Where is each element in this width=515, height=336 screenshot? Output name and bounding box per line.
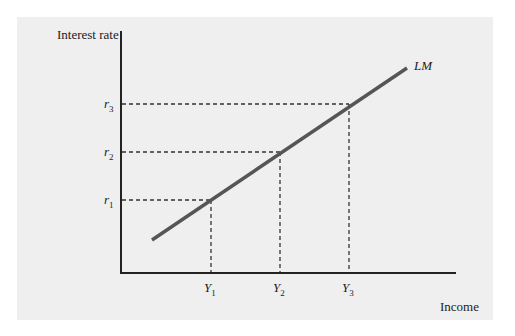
tick-y2: Y2 (273, 280, 285, 298)
lm-curve-label: LM (414, 58, 432, 74)
y-axis-label: Interest rate (57, 27, 119, 43)
tick-y3: Y3 (342, 280, 354, 298)
lm-curve (152, 68, 407, 240)
tick-r1: r1 (104, 192, 114, 210)
tick-r2: r2 (104, 144, 114, 162)
tick-r3: r3 (104, 96, 114, 114)
lm-curve-diagram (0, 0, 515, 336)
tick-y1: Y1 (204, 280, 216, 298)
x-axis-label: Income (440, 299, 479, 315)
